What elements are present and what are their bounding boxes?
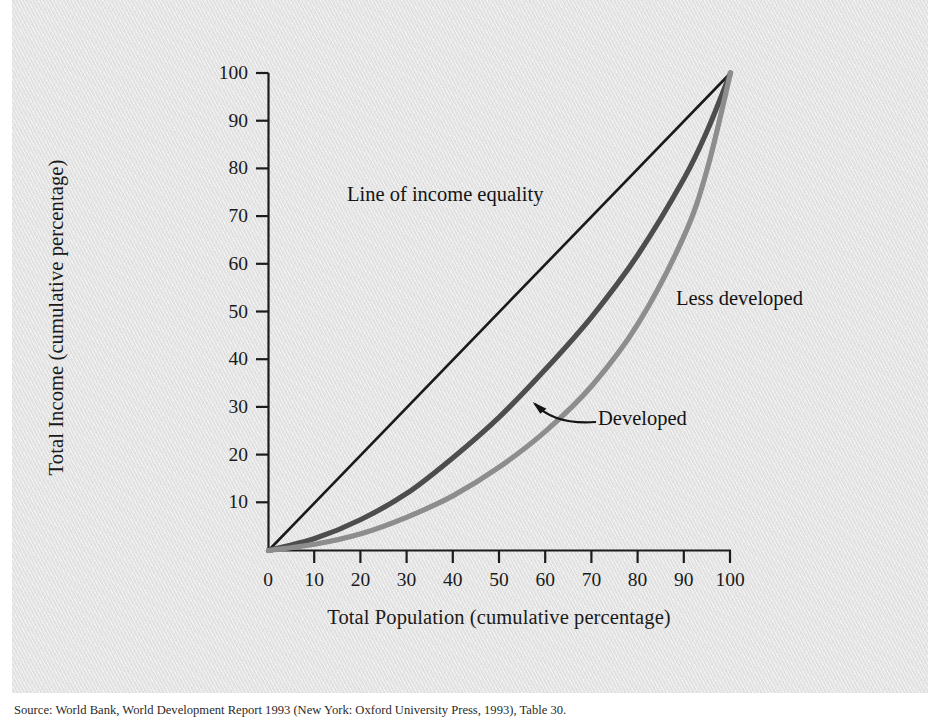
x-tick-label: 60: [522, 569, 568, 591]
x-tick-label: 40: [430, 569, 476, 591]
lorenz-curve-figure: 100 90 80 70 60 50 40 30 20 10 0 10 20 3…: [0, 0, 928, 722]
equality-line-label: Line of income equality: [347, 183, 543, 206]
x-tick-label: 0: [245, 569, 291, 591]
x-tick-label: 50: [476, 569, 522, 591]
x-tick-label: 80: [615, 569, 661, 591]
y-tick-label: 80: [202, 157, 248, 179]
y-axis-title: Total Income (cumulative percentage): [45, 148, 68, 488]
y-tick-label: 100: [202, 62, 248, 84]
y-tick-label: 40: [202, 348, 248, 370]
x-tick-label: 10: [291, 569, 337, 591]
y-tick-label: 10: [202, 491, 248, 513]
y-tick-label: 70: [202, 205, 248, 227]
y-tick-label: 60: [202, 253, 248, 275]
y-tick-label: 50: [202, 301, 248, 323]
y-tick-label: 20: [202, 444, 248, 466]
source-note: Source: World Bank, World Development Re…: [14, 703, 918, 722]
x-axis-title: Total Population (cumulative percentage): [268, 606, 730, 629]
y-tick-label: 30: [202, 396, 248, 418]
developed-label: Developed: [598, 407, 687, 430]
less-developed-label: Less developed: [676, 287, 803, 310]
x-tick-label: 20: [337, 569, 383, 591]
x-tick-label: 100: [707, 569, 753, 591]
y-tick-label: 90: [202, 110, 248, 132]
x-tick-label: 90: [661, 569, 707, 591]
x-tick-label: 30: [384, 569, 430, 591]
x-tick-label: 70: [568, 569, 614, 591]
